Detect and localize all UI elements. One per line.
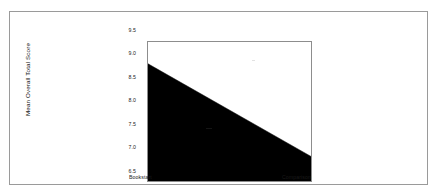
y-tick-label: 9.0 bbox=[122, 50, 136, 56]
y-axis-title: Mean Overall Total Score bbox=[24, 25, 31, 135]
area-polygon-mean-overall-total-score bbox=[148, 64, 311, 181]
data-area-series bbox=[148, 42, 311, 181]
plot-area bbox=[148, 42, 311, 181]
figure-frame: 9.5 9.0 8.5 8.0 7.5 7.0 6.5 Mean Overall… bbox=[9, 11, 428, 185]
x-tick-label-comparison: Comparison bbox=[282, 174, 311, 180]
y-tick-label: 7.0 bbox=[122, 144, 136, 150]
plot-frame bbox=[147, 41, 312, 182]
scan-artifact bbox=[206, 128, 212, 129]
y-tick-label: 7.5 bbox=[122, 121, 136, 127]
y-tick-label: 8.0 bbox=[122, 97, 136, 103]
y-tick-label: 9.5 bbox=[122, 27, 136, 33]
x-tick-label-bookstart: Bookstart bbox=[129, 174, 152, 180]
scan-artifact bbox=[252, 60, 255, 61]
y-tick-label: 8.5 bbox=[122, 74, 136, 80]
